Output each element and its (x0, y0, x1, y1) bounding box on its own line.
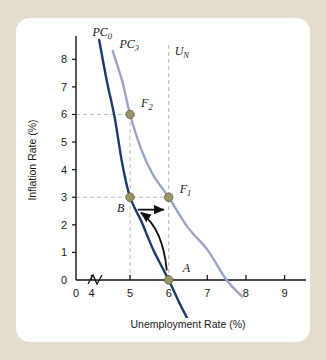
x-tick-label-4: 4 (88, 287, 94, 299)
y-tick-label-3: 3 (61, 191, 67, 203)
y-tick-label-2: 2 (61, 219, 67, 231)
y-tick-label-4: 4 (61, 164, 67, 176)
x-tick-label-0: 0 (73, 287, 79, 299)
x-tick-label-6: 6 (166, 287, 172, 299)
arrow-A-to-B (141, 212, 167, 270)
label-curve-PC0: PC0 (91, 25, 112, 41)
label-point-F1: F1 (179, 182, 192, 198)
y-tick-label-1: 1 (61, 246, 67, 258)
phillips-curve-chart: UN012345678Inflation Rate (%)0456789Unem… (16, 18, 310, 342)
label-point-F2: F2 (140, 96, 153, 112)
label-U_N: UN (175, 44, 191, 60)
marker-point-F2 (126, 110, 134, 118)
marker-point-B (126, 193, 134, 201)
y-tick-label-0: 0 (61, 274, 67, 286)
y-tick-label-7: 7 (61, 81, 67, 93)
x-tick-label-8: 8 (243, 287, 249, 299)
x-tick-label-5: 5 (127, 287, 133, 299)
y-tick-label-5: 5 (61, 136, 67, 148)
x-axis-title: Unemployment Rate (%) (131, 318, 246, 330)
label-point-B: B (117, 201, 125, 215)
x-axis-break (88, 275, 102, 284)
figure-card: UN012345678Inflation Rate (%)0456789Unem… (16, 18, 310, 342)
label-point-A: A (182, 261, 191, 275)
y-tick-label-8: 8 (61, 53, 67, 65)
y-axis-title: Inflation Rate (%) (26, 119, 38, 200)
x-tick-label-9: 9 (281, 287, 287, 299)
marker-point-F1 (164, 193, 172, 201)
y-tick-label-6: 6 (61, 108, 67, 120)
curve-PC0 (99, 40, 192, 327)
label-curve-PC3: PC3 (118, 37, 139, 53)
figure-root: UN012345678Inflation Rate (%)0456789Unem… (0, 0, 326, 360)
marker-point-A (164, 276, 172, 284)
curve-PC3 (113, 51, 242, 297)
x-tick-label-7: 7 (204, 287, 210, 299)
